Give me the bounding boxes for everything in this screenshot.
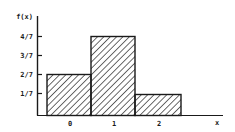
bar-x-0 [47,75,91,116]
bar-x-1 [91,37,135,116]
y-axis-label: f(x) [16,13,33,21]
bar-x-2 [135,95,181,116]
y-tick-label: 3/7 [20,52,33,60]
y-tick-label: 2/7 [20,71,33,79]
x-tick-label: 2 [157,120,161,128]
y-tick-label: 1/7 [20,90,33,98]
x-tick-label: 1 [112,120,116,128]
y-tick-label: 4/7 [20,33,33,41]
bars [47,37,181,116]
x-axis-label: x [215,119,220,127]
probability-histogram: 4/7 3/7 2/7 1/7 f(x) 0 1 2 x [0,0,235,132]
x-tick-label: 0 [68,120,72,128]
